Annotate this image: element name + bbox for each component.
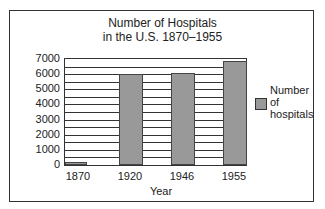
y-tick-label: 7000 <box>36 53 60 64</box>
x-tick-label: 1920 <box>110 170 150 182</box>
gridline <box>65 135 246 136</box>
x-axis-label: Year <box>136 185 186 197</box>
gridline <box>65 89 246 90</box>
legend-swatch <box>255 98 267 110</box>
legend-line: of <box>270 96 313 108</box>
x-tick-label: 1870 <box>58 170 98 182</box>
gridline <box>65 67 246 68</box>
y-tick-label: 6000 <box>36 68 60 79</box>
y-tick-label: 0 <box>54 159 60 170</box>
x-tick-label: 1946 <box>162 170 202 182</box>
x-tick-label: 1955 <box>214 170 254 182</box>
plot-area <box>64 58 247 166</box>
y-tick-label: 2000 <box>36 129 60 140</box>
bar-1946 <box>171 73 195 165</box>
gridline <box>65 74 246 75</box>
gridline <box>65 150 246 151</box>
bar-1870 <box>65 162 87 165</box>
legend-label: Number of hospitals <box>270 84 313 120</box>
chart-title-line-1: Number of Hospitals <box>0 16 325 30</box>
bar-1920 <box>119 74 143 165</box>
y-tick-label: 3000 <box>36 114 60 125</box>
bar-1955 <box>223 61 247 165</box>
y-tick-label: 5000 <box>36 83 60 94</box>
y-tick-label: 4000 <box>36 98 60 109</box>
gridline <box>65 127 246 128</box>
gridline <box>65 142 246 143</box>
legend-line: Number <box>270 84 313 96</box>
legend-line: hospitals <box>270 108 313 120</box>
chart-title-line-2: in the U.S. 1870–1955 <box>0 30 325 44</box>
gridline <box>65 112 246 113</box>
gridline <box>65 120 246 121</box>
gridline <box>65 82 246 83</box>
y-tick-label: 1000 <box>36 144 60 155</box>
gridline <box>65 157 246 158</box>
gridline <box>65 97 246 98</box>
gridline <box>65 104 246 105</box>
